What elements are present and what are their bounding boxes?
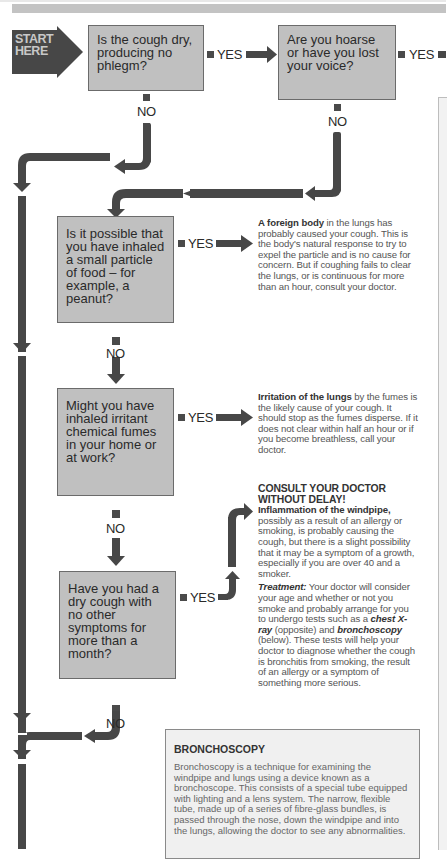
no-marker-icon	[334, 104, 341, 111]
answer-text: in the lungs has probably caused your co…	[258, 217, 411, 292]
yes-marker-icon	[180, 594, 187, 601]
yes-label: YES	[409, 47, 434, 62]
answer-text: possibly as a result of an allergy or sm…	[258, 515, 414, 579]
answer-irritation: Irritation of the lungs by the fumes is …	[258, 392, 418, 456]
question-text: Is the cough dry, producing no phlegm?	[97, 32, 192, 73]
answer-foreign-body: A foreign body in the lungs has probably…	[258, 218, 418, 292]
question-box-hoarse: Are you hoarse or have you lost your voi…	[278, 25, 396, 100]
question-text: Have you had a dry cough with no other s…	[68, 581, 159, 661]
answer-heading: Irritation of the lungs	[258, 391, 352, 402]
treatment-label: Treatment:	[258, 581, 306, 592]
treatment-paragraph: Treatment: Your doctor will consider you…	[258, 582, 418, 688]
urgent-heading: CONSULT YOUR DOCTOR WITHOUT DELAY!	[258, 484, 418, 505]
yes-label: YES	[217, 47, 242, 62]
yes-label: YES	[188, 410, 213, 425]
question-text: Is it possible that you have inhaled a s…	[66, 226, 164, 306]
no-label: NO	[328, 114, 347, 129]
start-here-label: START HERE	[15, 33, 53, 57]
yes-marker-icon	[178, 414, 185, 421]
no-marker-icon	[143, 123, 150, 130]
no-label: NO	[106, 716, 125, 731]
treatment-text: (below). These tests will help your doct…	[258, 634, 415, 687]
bronchoscopy-link: bronchoscopy	[337, 624, 402, 635]
no-label: NO	[106, 346, 125, 361]
answer-heading: Inflammation of the windpipe,	[258, 504, 390, 515]
bronchoscopy-text: Bronchoscopy is a technique for examinin…	[174, 762, 411, 836]
answer-heading: A foreign body	[258, 217, 324, 228]
bronchoscopy-title: BRONCHOSCOPY	[174, 743, 411, 755]
yes-marker-icon	[398, 51, 405, 58]
treatment-text: (opposite) and	[272, 624, 337, 635]
answer-windpipe: CONSULT YOUR DOCTOR WITHOUT DELAY! Infla…	[258, 484, 418, 688]
question-box-inhaled-particle: Is it possible that you have inhaled a s…	[57, 216, 174, 323]
side-panel-edge	[438, 97, 447, 850]
question-text: Are you hoarse or have you lost your voi…	[287, 32, 379, 73]
question-box-dry-cough: Is the cough dry, producing no phlegm?	[88, 25, 204, 91]
yes-marker-icon	[207, 51, 214, 58]
bronchoscopy-info-box: BRONCHOSCOPY Bronchoscopy is a technique…	[165, 729, 420, 859]
no-marker-icon	[143, 94, 150, 101]
question-box-dry-cough-month: Have you had a dry cough with no other s…	[59, 571, 176, 679]
no-label: NO	[137, 104, 156, 119]
question-text: Might you have inhaled irritant chemical…	[66, 398, 156, 465]
no-label: NO	[106, 521, 125, 536]
yes-label: YES	[190, 590, 215, 605]
start-label-line2: HERE	[15, 45, 53, 57]
yes-label: YES	[188, 236, 213, 251]
question-box-chemical-fumes: Might you have inhaled irritant chemical…	[57, 388, 174, 496]
